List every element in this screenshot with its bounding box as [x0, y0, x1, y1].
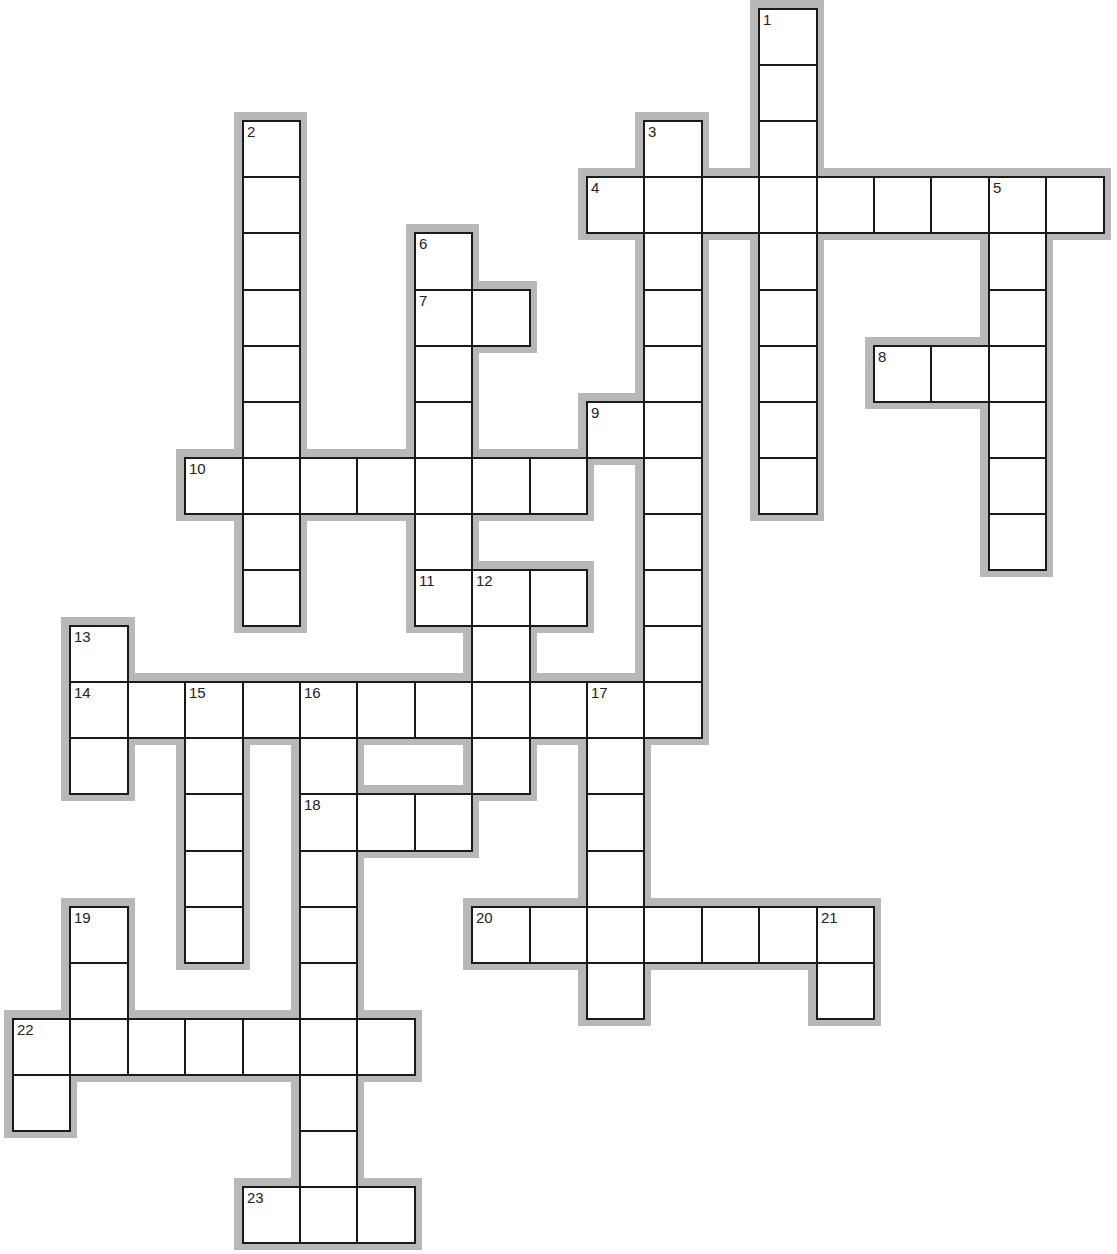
crossword-cell[interactable]: 20 — [471, 906, 531, 964]
crossword-cell[interactable] — [758, 232, 818, 291]
crossword-cell[interactable]: 12 — [471, 569, 531, 627]
crossword-cell[interactable] — [356, 1186, 416, 1244]
crossword-cell[interactable]: 10 — [184, 457, 244, 515]
crossword-cell[interactable]: 4 — [586, 176, 645, 234]
crossword-cell[interactable] — [988, 401, 1047, 459]
crossword-cell[interactable] — [184, 737, 244, 795]
crossword-cell[interactable] — [242, 232, 301, 291]
crossword-cell[interactable] — [643, 681, 703, 739]
crossword-cell[interactable] — [299, 1130, 358, 1188]
crossword-cell[interactable] — [643, 176, 703, 234]
crossword-cell[interactable] — [299, 737, 358, 795]
crossword-cell[interactable] — [242, 289, 301, 347]
crossword-cell[interactable] — [643, 513, 703, 571]
crossword-cell[interactable] — [643, 569, 703, 627]
crossword-cell[interactable]: 15 — [184, 681, 244, 739]
crossword-cell[interactable] — [758, 120, 818, 178]
crossword-cell[interactable] — [299, 962, 358, 1020]
crossword-cell[interactable] — [69, 1018, 129, 1076]
crossword-cell[interactable] — [356, 681, 416, 739]
crossword-cell[interactable] — [758, 176, 818, 234]
crossword-cell[interactable] — [184, 850, 244, 908]
crossword-cell[interactable] — [586, 850, 645, 908]
crossword-cell[interactable] — [242, 345, 301, 403]
crossword-cell[interactable]: 21 — [816, 906, 875, 964]
crossword-cell[interactable] — [299, 457, 358, 515]
crossword-cell[interactable] — [586, 793, 645, 852]
crossword-cell[interactable]: 8 — [873, 345, 932, 403]
crossword-cell[interactable] — [356, 793, 416, 852]
crossword-cell[interactable] — [586, 737, 645, 795]
crossword-cell[interactable] — [643, 625, 703, 683]
crossword-cell[interactable] — [127, 681, 186, 739]
crossword-cell[interactable] — [242, 569, 301, 627]
crossword-cell[interactable]: 13 — [69, 625, 129, 683]
crossword-cell[interactable]: 17 — [586, 681, 645, 739]
crossword-cell[interactable] — [299, 906, 358, 964]
crossword-cell[interactable] — [299, 1074, 358, 1132]
crossword-cell[interactable] — [988, 345, 1047, 403]
crossword-cell[interactable] — [242, 457, 301, 515]
crossword-cell[interactable]: 9 — [586, 401, 645, 459]
crossword-cell[interactable]: 11 — [414, 569, 473, 627]
crossword-cell[interactable] — [471, 457, 531, 515]
crossword-cell[interactable] — [643, 401, 703, 459]
crossword-cell[interactable] — [356, 457, 416, 515]
crossword-cell[interactable] — [930, 176, 990, 234]
crossword-cell[interactable] — [471, 289, 531, 347]
crossword-cell[interactable]: 23 — [242, 1186, 301, 1244]
crossword-cell[interactable] — [184, 906, 244, 964]
crossword-cell[interactable] — [69, 962, 129, 1020]
crossword-cell[interactable] — [242, 681, 301, 739]
crossword-cell[interactable]: 1 — [758, 8, 818, 66]
crossword-cell[interactable] — [758, 64, 818, 122]
crossword-cell[interactable] — [356, 1018, 416, 1076]
crossword-cell[interactable]: 14 — [69, 681, 129, 739]
crossword-cell[interactable] — [529, 569, 588, 627]
crossword-cell[interactable]: 22 — [12, 1018, 71, 1076]
crossword-cell[interactable] — [586, 906, 645, 964]
crossword-cell[interactable] — [529, 457, 588, 515]
crossword-cell[interactable] — [242, 401, 301, 459]
crossword-cell[interactable] — [643, 345, 703, 403]
crossword-cell[interactable] — [242, 176, 301, 234]
crossword-cell[interactable] — [184, 1018, 244, 1076]
crossword-cell[interactable]: 6 — [414, 232, 473, 291]
crossword-cell[interactable] — [242, 1018, 301, 1076]
crossword-cell[interactable]: 2 — [242, 120, 301, 178]
crossword-cell[interactable] — [184, 793, 244, 852]
crossword-cell[interactable] — [816, 176, 875, 234]
crossword-cell[interactable] — [471, 737, 531, 795]
crossword-cell[interactable] — [471, 625, 531, 683]
crossword-cell[interactable] — [758, 457, 818, 515]
crossword-cell[interactable] — [529, 681, 588, 739]
crossword-cell[interactable]: 16 — [299, 681, 358, 739]
crossword-cell[interactable] — [988, 457, 1047, 515]
crossword-cell[interactable] — [988, 232, 1047, 291]
crossword-cell[interactable] — [988, 513, 1047, 571]
crossword-cell[interactable] — [529, 906, 588, 964]
crossword-cell[interactable] — [1045, 176, 1105, 234]
crossword-cell[interactable] — [643, 289, 703, 347]
crossword-cell[interactable] — [758, 289, 818, 347]
crossword-cell[interactable]: 7 — [414, 289, 473, 347]
crossword-cell[interactable] — [643, 232, 703, 291]
crossword-cell[interactable] — [414, 513, 473, 571]
crossword-cell[interactable]: 19 — [69, 906, 129, 964]
crossword-cell[interactable] — [701, 176, 760, 234]
crossword-cell[interactable] — [127, 1018, 186, 1076]
crossword-cell[interactable] — [988, 289, 1047, 347]
crossword-cell[interactable] — [242, 513, 301, 571]
crossword-cell[interactable] — [586, 962, 645, 1020]
crossword-cell[interactable]: 5 — [988, 176, 1047, 234]
crossword-cell[interactable] — [930, 345, 990, 403]
crossword-cell[interactable] — [69, 737, 129, 795]
crossword-cell[interactable]: 3 — [643, 120, 703, 178]
crossword-cell[interactable] — [701, 906, 760, 964]
crossword-cell[interactable] — [299, 850, 358, 908]
crossword-cell[interactable] — [643, 457, 703, 515]
crossword-cell[interactable] — [414, 401, 473, 459]
crossword-cell[interactable] — [414, 345, 473, 403]
crossword-cell[interactable] — [414, 457, 473, 515]
crossword-cell[interactable] — [299, 1018, 358, 1076]
